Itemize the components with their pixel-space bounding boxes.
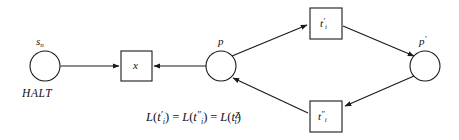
place-p[interactable] bbox=[206, 51, 236, 81]
transition-x-label: x bbox=[133, 60, 138, 71]
place-s-n[interactable] bbox=[30, 51, 60, 81]
place-s-n-halt-label: HALT bbox=[22, 88, 52, 100]
place-p-label: p bbox=[218, 36, 224, 47]
petri-net-figure: sn HALT p p′ x t′i t″i L(t′i)=L(t″i)=L(t… bbox=[0, 0, 459, 140]
arc-t-double-prime-to-p bbox=[233, 78, 308, 113]
place-p-prime-label: p′ bbox=[419, 35, 426, 47]
place-s-n-label: sn bbox=[36, 36, 44, 49]
caption-term-1: L bbox=[146, 110, 153, 124]
caption-equals-1: = bbox=[169, 110, 182, 124]
caption-formula: L(t′i)=L(t″i)=L(tZi) bbox=[146, 110, 241, 126]
transition-t-i-prime-label: t′i bbox=[320, 17, 327, 31]
place-p-prime[interactable] bbox=[410, 51, 440, 81]
arc-p-prime-to-t-double-prime bbox=[345, 76, 414, 106]
caption-equals-2: = bbox=[207, 110, 220, 124]
arc-t-prime-to-p-prime bbox=[343, 26, 414, 56]
arc-p-to-t-prime bbox=[232, 25, 307, 56]
transition-t-i-double-prime-label: t″i bbox=[318, 110, 327, 124]
